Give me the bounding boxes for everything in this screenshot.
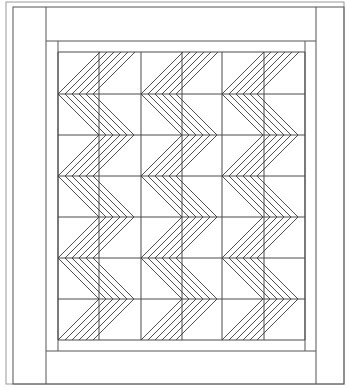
quilt-diagram — [0, 0, 348, 388]
hatch-line — [162, 52, 204, 94]
hatch-line — [65, 52, 107, 94]
hatch-line — [72, 52, 114, 94]
hatch-line — [58, 52, 100, 94]
hatch-line — [236, 52, 278, 94]
hatch-line — [229, 52, 271, 94]
hatch-line — [257, 52, 299, 94]
hatch-line — [141, 52, 183, 94]
hatch-line — [169, 52, 211, 94]
hatch-line — [250, 52, 292, 94]
hatch-line — [222, 52, 264, 94]
hatch-line — [148, 52, 190, 94]
hatch-line — [155, 52, 197, 94]
hatch-line — [86, 52, 128, 94]
zigzag-hatching — [58, 52, 299, 340]
hatch-line — [79, 52, 121, 94]
